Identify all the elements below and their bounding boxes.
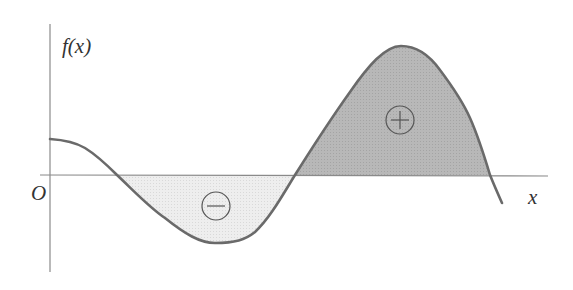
y-axis-label: f(x) [62,34,91,58]
negative-area-region [117,175,295,243]
positive-area-region [295,46,490,175]
function-graph: f(x) x O [0,0,573,290]
origin-label: O [31,181,46,205]
x-axis-label: x [527,185,538,209]
